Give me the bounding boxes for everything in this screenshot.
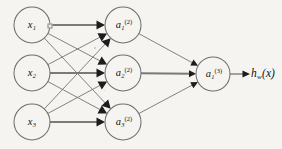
edge-a3_2-to-a1_3 (139, 84, 195, 114)
scan-speck (94, 47, 96, 49)
label-x3: x3 (28, 117, 36, 128)
label-a3_2: a3(2) (116, 117, 133, 128)
edge-x3-to-a2_2 (48, 84, 103, 114)
arrowhead-icon (97, 20, 106, 29)
hidden-to-output-edges (139, 34, 195, 114)
arrowhead-icon (97, 68, 106, 77)
label-a1_2: a1(2) (116, 20, 133, 31)
label-a2_2: a2(2) (116, 68, 133, 79)
weight-marker-icon (48, 24, 53, 29)
network-graph (0, 0, 282, 149)
edge-a2_2-to-a1_3 (141, 73, 192, 74)
label-a1_3: a1(3) (206, 69, 223, 80)
label-x2: x2 (28, 68, 36, 79)
edge-a1_2-to-a1_3 (139, 34, 195, 64)
edge-x2-to-a1_2 (48, 36, 103, 65)
label-hypothesis-output: hw(x) (251, 68, 275, 80)
arrowhead-icon (189, 70, 196, 77)
label-x1: x1 (28, 20, 36, 31)
arrowhead-icon (243, 70, 251, 77)
arrowhead-icon (97, 117, 106, 126)
neural-network-figure: x1x2x3a1(2)a2(2)a3(2)a1(3)hw(x) (0, 0, 282, 149)
